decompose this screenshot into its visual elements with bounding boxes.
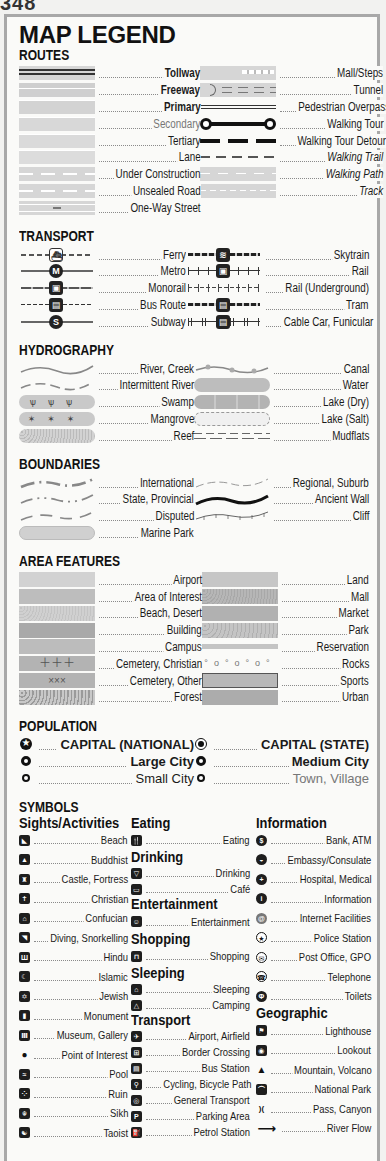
symbol-label-islamic: Islamic [97,971,128,983]
post-office-icon: ✉ [256,952,267,963]
beach-desert-swatch [19,606,95,621]
capital-state-icon [194,737,208,751]
area-row-airport: Airport [19,571,202,588]
population-label-capital-state: CAPITAL (STATE) [258,737,369,752]
lookout-icon: ◉ [256,1045,267,1056]
transport-row-skytrain: ≋ Skytrain [186,246,369,263]
symbols-section: SYMBOLS Sights/Activities ◣Beach ▲Buddhi… [19,799,369,1143]
beach-icon: ◣ [19,835,30,846]
hydro-label-canal: Canal [342,362,369,376]
under-construction-swatch [19,167,95,181]
symbol-label-jewish: Jewish [97,990,127,1002]
eating-heading: Eating [131,816,240,831]
symbol-label-toilets: Toilets [343,990,371,1002]
boundaries-section: BOUNDARIES International State, Provinci… [19,456,369,541]
pedestrian-overpass-swatch [200,100,276,114]
transport-row-bus-route: ▤ Bus Route [19,297,186,314]
intermittent-river-swatch [19,378,95,392]
ruin-icon: ⁘ [19,1088,30,1099]
mall-swatch [202,589,278,604]
symbol-label-sleeping: Sleeping [212,983,250,995]
area-row-forest: Forest [19,689,202,706]
area-label-campus: Campus [164,640,202,654]
metro-icon: M [49,264,63,278]
diving-icon: ◥ [19,932,30,943]
mall-steps-swatch [200,66,276,80]
boundary-row-cliff: Cliff [194,508,369,525]
area-label-market: Market [337,606,369,620]
general-transport-icon: ◎ [131,1095,142,1106]
boundary-label-state-provincial: State, Provincial [121,492,194,506]
bank-icon: $ [256,835,267,846]
population-row-medium-city: Medium City [194,753,369,770]
route-row-tunnel: Tunnel [200,82,383,99]
monument-icon: ▮ [19,1010,30,1021]
mudflats-swatch [194,429,270,443]
walking-tour-detour-swatch [200,134,276,148]
area-features-section: AREA FEATURES Airport Area of Interest B… [19,553,369,705]
rocks-swatch: °o°o°o° [202,656,278,671]
symbol-label-hospital: Hospital, Medical [298,873,371,885]
boundary-label-ancient-wall: Ancient Wall [313,492,369,506]
point-of-interest-icon: ● [19,1049,30,1060]
information-geographic-column: Information $Bank, ATM ◒Embassy/Consulat… [250,816,371,1143]
reservation-swatch [202,639,278,654]
eating-transport-column: Eating 🍴Eating Drinking ▽Drinking ▭Café … [128,816,250,1143]
symbol-label-cafe: Café [228,883,250,895]
area-row-area-of-interest: Area of Interest [19,588,202,605]
lake-salt-swatch [194,412,270,426]
symbol-label-petrol-station: Petrol Station [192,1126,250,1138]
transport-row-rail: ▣ Rail [186,263,369,280]
route-label-mall-steps: Mall/Steps [336,66,384,80]
symbol-label-parking: Parking Area [194,1110,250,1122]
cycling-icon: ⚲ [131,1079,142,1090]
route-row-tertiary: Tertiary [19,132,200,149]
area-row-cemetery-other: ×××Cemetery, Other [19,672,202,689]
route-label-primary: Primary [162,100,200,114]
disputed-boundary-swatch [19,509,95,523]
hospital-icon: + [256,874,267,885]
castle-icon: ♜ [19,874,30,885]
transport-row-ferry: ⛴ Ferry [19,246,186,263]
land-swatch [202,572,278,587]
population-label-capital-national: CAPITAL (NATIONAL) [57,737,194,752]
transport-label-tram: Tram [345,298,369,312]
area-row-campus: Campus [19,639,202,656]
route-label-under-construction: Under Construction [114,167,200,181]
parking-icon: P [131,1111,142,1122]
area-row-park: Park [202,622,369,639]
hydro-row-river: River, Creek [19,360,194,377]
sleeping-icon: ⌂ [131,984,142,995]
one-way-street-swatch [19,201,95,215]
transport-right-column: ≋ Skytrain ▣ Rail Rail (Underground) ▤ T… [186,246,369,330]
town-icon [194,771,208,785]
symbol-label-buddhist: Buddhist [90,854,128,866]
sights-heading: Sights/Activities [19,816,119,831]
route-row-unsealed-road: Unsealed Road [19,183,200,200]
hydro-row-canal: Canal [194,360,369,377]
population-row-capital-national: ★ CAPITAL (NATIONAL) [19,736,194,753]
symbol-label-bank: Bank, ATM [324,834,371,846]
transport-symbols-heading: Transport [131,1013,240,1028]
telephone-icon: ☎ [256,971,267,982]
tertiary-swatch [19,134,95,148]
route-row-mall-steps: Mall/Steps [200,65,383,82]
symbol-label-general-transport: General Transport [172,1094,250,1106]
route-label-track: Track [358,184,384,198]
symbol-label-sikh: Sikh [108,1107,128,1119]
symbol-label-lookout: Lookout [336,1044,371,1056]
symbol-label-drinking: Drinking [214,867,250,879]
area-of-interest-swatch [19,589,95,604]
museum-icon: Ⅲ [19,1030,30,1041]
information-heading: Information [256,816,362,831]
mangrove-swatch: ✶✶✶ [19,412,95,426]
symbol-label-post-office: Post Office, GPO [297,951,371,963]
route-label-lane: Lane [177,150,201,164]
hydro-row-lake-dry: Lake (Dry) [194,394,369,411]
route-row-tollway: Tollway [19,65,200,82]
area-features-heading: AREA FEATURES [19,553,320,569]
route-row-walking-tour-detour: Walking Tour Detour [200,132,383,149]
cafe-icon: ▭ [131,884,142,895]
shopping-heading: Shopping [131,932,240,947]
transport-section: TRANSPORT ⛴ Ferry M Metro ▣ Monorail ▤ B… [19,228,369,330]
